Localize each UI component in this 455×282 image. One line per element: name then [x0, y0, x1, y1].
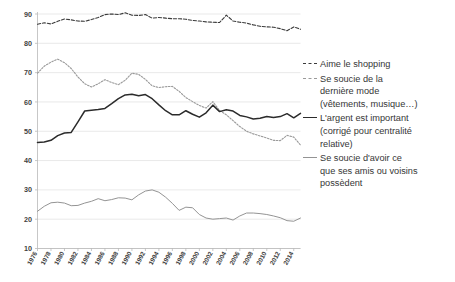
legend-label: Se soucie de ladernière mode(vêtements, … — [320, 73, 418, 111]
x-axis-tick-label: 2010 — [255, 250, 268, 266]
x-axis-tick-label: 1982 — [66, 250, 79, 266]
legend-label-line: dernière mode — [320, 85, 418, 98]
legend-label-line: possèdent — [320, 177, 418, 190]
legend-label-line: Aime le shopping — [320, 58, 390, 71]
legend-label-line: Se soucie de la — [320, 73, 418, 86]
y-axis-tick-label: 60 — [24, 98, 32, 107]
legend-item[interactable]: Aime le shopping — [303, 58, 455, 71]
legend-label: Se soucie d'avoir ceque ses amis ou vois… — [320, 152, 418, 190]
series-line-3 — [38, 190, 301, 221]
x-axis-tick-label: 2012 — [268, 250, 281, 266]
y-axis-tick-label: 90 — [24, 10, 32, 19]
legend-item[interactable]: L'argent est important(corrigé pour cent… — [303, 112, 455, 150]
legend-line-icon — [303, 112, 317, 124]
x-axis-tick-label: 1998 — [174, 250, 187, 266]
legend-line-icon — [303, 58, 317, 70]
legend-line-icon — [303, 73, 317, 85]
y-axis-tick-label: 50 — [24, 127, 32, 136]
legend-label-line: relative) — [320, 138, 412, 151]
x-axis-tick-label: 1986 — [93, 250, 106, 266]
chart-legend: Aime le shoppingSe soucie de ladernière … — [303, 58, 455, 192]
x-axis-tick-label: 2008 — [241, 250, 254, 266]
x-axis-tick-label: 2014 — [282, 250, 295, 266]
x-axis-tick-label: 1994 — [147, 250, 160, 266]
x-axis-tick-label: 2002 — [201, 250, 214, 266]
y-axis-tick-label: 40 — [24, 156, 32, 165]
series-line-2 — [38, 94, 301, 142]
y-axis-tick-label: 70 — [24, 68, 32, 77]
legend-label-line: Se soucie d'avoir ce — [320, 152, 418, 165]
x-axis-tick-label: 2000 — [187, 250, 200, 266]
x-axis-tick-label: 1978 — [39, 250, 52, 266]
x-axis-tick-label: 1992 — [133, 250, 146, 266]
legend-label-line: (vêtements, musique…) — [320, 98, 418, 111]
legend-label-line: que ses amis ou voisins — [320, 165, 418, 178]
legend-label: L'argent est important(corrigé pour cent… — [320, 112, 412, 150]
legend-label-line: (corrigé pour centralité — [320, 125, 412, 138]
series-line-0 — [38, 13, 301, 31]
legend-label-line: L'argent est important — [320, 112, 412, 125]
chart-container: 1020304050607080901976197819801982198419… — [0, 0, 455, 282]
x-axis-tick-label: 1996 — [160, 250, 173, 266]
y-axis-tick-label: 20 — [24, 215, 32, 224]
x-axis-tick-label: 1988 — [106, 250, 119, 266]
legend-label: Aime le shopping — [320, 58, 390, 71]
legend-item[interactable]: Se soucie de ladernière mode(vêtements, … — [303, 73, 455, 111]
legend-item[interactable]: Se soucie d'avoir ceque ses amis ou vois… — [303, 152, 455, 190]
x-axis-tick-label: 2006 — [228, 250, 241, 266]
x-axis-tick-label: 1990 — [120, 250, 133, 266]
legend-line-icon — [303, 152, 317, 164]
x-axis-tick-label: 2004 — [214, 250, 227, 266]
y-axis-tick-label: 30 — [24, 185, 32, 194]
y-axis-tick-label: 80 — [24, 39, 32, 48]
x-axis-tick-label: 1984 — [79, 250, 92, 266]
x-axis-tick-label: 1980 — [53, 250, 66, 266]
